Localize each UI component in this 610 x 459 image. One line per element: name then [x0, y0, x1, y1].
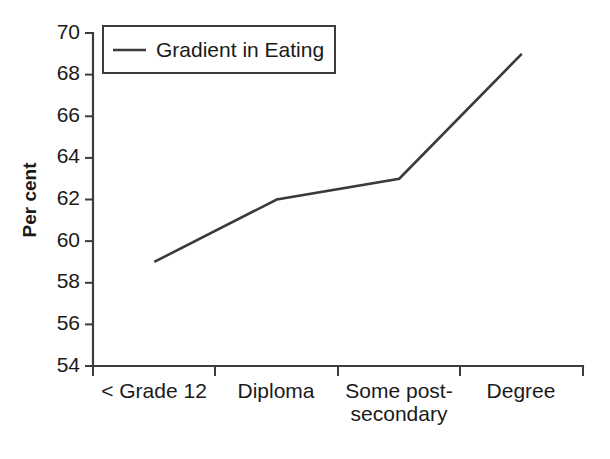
y-tick-label: 68 [57, 61, 80, 84]
legend-label: Gradient in Eating [156, 38, 324, 61]
y-tick-label: 62 [57, 186, 80, 209]
y-tick-label: 56 [57, 311, 80, 334]
x-tick-label-line2: secondary [351, 402, 448, 425]
y-tick-label: 60 [57, 228, 80, 251]
y-tick-label: 58 [57, 269, 80, 292]
y-axis-tick-labels: 70 68 66 64 62 60 58 56 54 [57, 20, 81, 376]
y-tick-label: 66 [57, 103, 80, 126]
y-axis-ticks [85, 33, 93, 366]
x-axis-ticks [93, 366, 583, 376]
y-tick-label: 64 [57, 144, 81, 167]
x-tick-label: Diploma [237, 379, 314, 402]
plot-area [93, 33, 583, 366]
y-tick-label: 54 [57, 353, 81, 376]
x-tick-label: < Grade 12 [101, 379, 207, 402]
y-tick-label: 70 [57, 20, 80, 43]
x-tick-label: Degree [487, 379, 556, 402]
line-chart: 70 68 66 64 62 60 58 56 54 Per cent < Gr… [0, 0, 610, 459]
x-tick-label: Some post- [345, 379, 452, 402]
legend: Gradient in Eating [103, 26, 335, 73]
chart-figure: 70 68 66 64 62 60 58 56 54 Per cent < Gr… [0, 0, 610, 459]
x-axis-tick-labels: < Grade 12 Diploma Some post- secondary … [101, 379, 555, 425]
y-axis-title: Per cent [19, 162, 40, 238]
